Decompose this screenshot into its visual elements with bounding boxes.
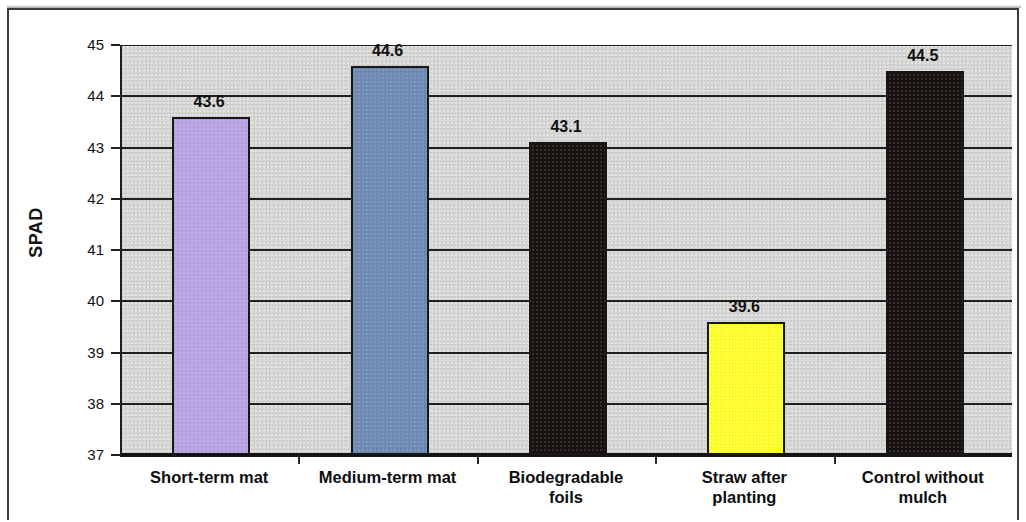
gridline: [122, 45, 1012, 46]
bar: [707, 322, 785, 455]
y-tick-mark: [111, 300, 120, 302]
y-tick-mark: [111, 403, 120, 405]
y-tick-label: 45: [64, 37, 104, 52]
bar-texture: [353, 68, 427, 454]
y-tick-mark: [111, 249, 120, 251]
bar: [529, 142, 607, 455]
y-tick-label: 39: [64, 345, 104, 360]
y-tick-mark: [111, 44, 120, 46]
y-tick-mark: [111, 454, 120, 456]
x-category-label: Biodegradable foils: [477, 467, 655, 507]
y-axis-title: SPAD: [26, 203, 47, 263]
x-tick-mark: [655, 455, 657, 464]
bar: [351, 66, 429, 456]
bar: [172, 117, 250, 455]
x-category-label: Straw after planting: [655, 467, 833, 507]
x-category-label: Control without mulch: [834, 467, 1012, 507]
y-tick-mark: [111, 147, 120, 149]
bar: [886, 71, 964, 455]
x-tick-mark: [834, 455, 836, 464]
bar-value-label: 43.1: [526, 118, 606, 136]
bar-value-label: 44.6: [348, 42, 428, 60]
bar-texture: [888, 73, 962, 453]
gridline: [122, 95, 1012, 97]
plot-area: [120, 45, 1012, 455]
y-tick-mark: [111, 352, 120, 354]
x-tick-mark: [298, 455, 300, 464]
y-tick-mark: [111, 198, 120, 200]
y-tick-mark: [111, 95, 120, 97]
y-tick-label: 40: [64, 293, 104, 308]
y-tick-label: 42: [64, 191, 104, 206]
y-tick-label: 43: [64, 140, 104, 155]
x-category-label: Short-term mat: [120, 467, 298, 487]
bar-texture: [174, 119, 248, 453]
bar-value-label: 39.6: [704, 298, 784, 316]
frame-top-edge: [7, 5, 1021, 8]
y-tick-label: 41: [64, 242, 104, 257]
y-tick-label: 44: [64, 88, 104, 103]
bar-texture: [531, 144, 605, 453]
x-tick-mark: [477, 455, 479, 464]
bar-chart-figure: SPAD 45444342414039383743.644.643.139.64…: [0, 0, 1026, 522]
x-axis-line: [120, 455, 1012, 457]
x-category-label: Medium-term mat: [298, 467, 476, 487]
bar-value-label: 44.5: [883, 47, 963, 65]
y-tick-label: 37: [64, 447, 104, 462]
bar-value-label: 43.6: [169, 93, 249, 111]
y-tick-label: 38: [64, 396, 104, 411]
bar-texture: [709, 324, 783, 453]
